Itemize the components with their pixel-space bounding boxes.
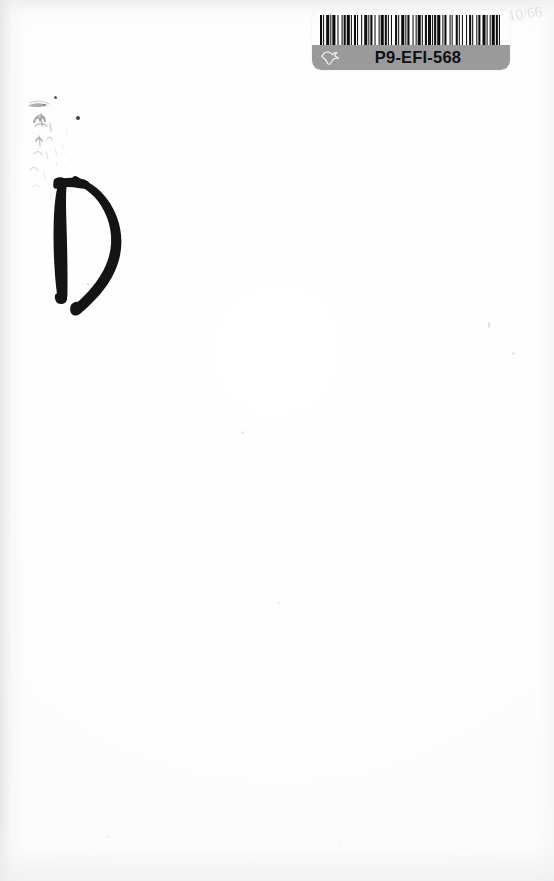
dust-speck <box>340 843 342 845</box>
scanned-page: 10/66 P9-EFI-568 <box>0 0 554 881</box>
label-band: P9-EFI-568 <box>312 45 510 70</box>
dust-speck <box>241 431 244 434</box>
barcode-code-text: P9-EFI-568 <box>340 49 510 66</box>
scan-edge-shadow-bottom <box>0 821 554 881</box>
dust-speck <box>488 322 490 328</box>
handwritten-letter-d <box>38 170 148 320</box>
scan-edge-shadow-right <box>536 0 554 881</box>
barcode-icon <box>312 10 510 46</box>
dust-speck <box>512 352 515 355</box>
barcode-label: P9-EFI-568 <box>312 10 510 70</box>
dust-speck <box>76 116 80 120</box>
dust-speck <box>106 836 109 838</box>
dove-icon <box>320 50 340 66</box>
dust-speck <box>278 602 280 604</box>
dust-speck <box>43 104 45 106</box>
dust-speck <box>54 96 57 99</box>
